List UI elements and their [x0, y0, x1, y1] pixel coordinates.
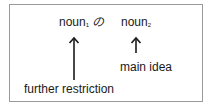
noun1-subscript: 1	[86, 22, 89, 28]
further-restriction-label: further restriction	[24, 83, 114, 95]
main-idea-label: main idea	[120, 61, 172, 73]
noun1-text: noun	[59, 15, 86, 29]
noun2-text: noun	[121, 15, 148, 29]
noun2-subscript: 2	[148, 22, 151, 28]
arrow-up-long-icon	[68, 36, 80, 82]
noun2-label: noun2	[121, 16, 151, 31]
arrow-up-short-icon	[130, 36, 142, 54]
noun1-label: noun1の	[59, 16, 104, 31]
no-particle: の	[92, 15, 104, 29]
